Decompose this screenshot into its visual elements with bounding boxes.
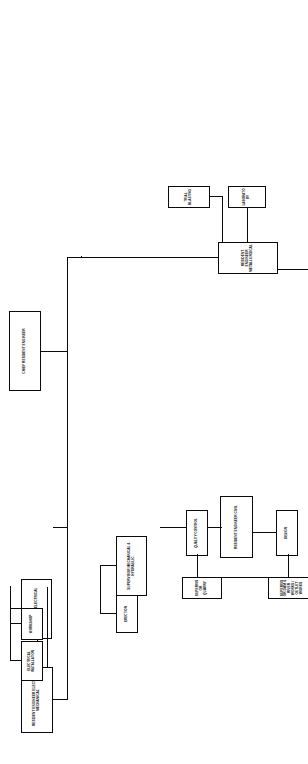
connector-em-mech-top bbox=[100, 565, 101, 614]
node-civil-design[interactable]: DESIGN bbox=[276, 510, 298, 556]
node-em-erection[interactable]: ERECTION bbox=[116, 595, 138, 633]
node-em-workshop[interactable]: WORKSHOP bbox=[21, 608, 43, 640]
connector-civil-design bbox=[253, 532, 276, 533]
node-label: DESIGN bbox=[285, 526, 289, 540]
node-label: QUALITY CONTROL bbox=[195, 517, 199, 549]
connector-branch-em bbox=[53, 699, 67, 700]
org-chart-canvas: CHIEF RESIDENT ENGINEER RESIDENT ENGINEE… bbox=[0, 0, 308, 764]
connector-em-mech-bus bbox=[47, 587, 48, 667]
connector-trunk-met-ext bbox=[67, 257, 68, 352]
node-label: CHIEF RESIDENT ENGINEER bbox=[23, 327, 27, 374]
connector-em-elec-riser bbox=[10, 608, 21, 609]
connector-root-trunk bbox=[67, 351, 68, 700]
connector-met-trial-v bbox=[210, 196, 222, 197]
connector-met-riser bbox=[81, 257, 218, 258]
node-label: LABORATORY bbox=[243, 187, 250, 207]
node-re-civil[interactable]: RESIDENT ENGINEER CIVIL bbox=[220, 496, 253, 558]
connector-met-trial-h bbox=[222, 196, 223, 242]
node-label: ELECTRICAL INSTALLATION bbox=[28, 642, 35, 680]
connector-em-elec-child-0 bbox=[10, 660, 21, 661]
node-met-trial-blasting[interactable]: TRIAL BLASTING bbox=[168, 186, 210, 208]
node-em-supervisor-mechanical[interactable]: SUPERVISOR MECHANICAL & HYDRAULIC bbox=[116, 536, 147, 596]
node-chief-resident-engineer[interactable]: CHIEF RESIDENT ENGINEER bbox=[9, 311, 41, 391]
connector-civil-bus-2 bbox=[288, 554, 289, 578]
connector-em-erection bbox=[100, 613, 116, 614]
connector-branch-met bbox=[67, 257, 81, 258]
node-label: SUPERVISOR MECHANICAL & HYDRAULIC bbox=[128, 537, 136, 595]
connector-branch-civil bbox=[53, 527, 67, 528]
node-re-metallurgical[interactable]: RESIDENT ENGINEER METALLURGICAL bbox=[218, 242, 278, 274]
node-civil-supervisor-quarry[interactable]: SUPERVISOR QUARRY bbox=[182, 577, 222, 599]
connector-em-elec-child-1 bbox=[10, 623, 21, 624]
node-label: RESIDENT ENGINEER METALLURGICAL bbox=[242, 243, 253, 273]
node-em-electrical-installation[interactable]: ELECTRICAL INSTALLATION bbox=[21, 641, 43, 681]
connector-met-mech-riser bbox=[278, 269, 308, 270]
connector-em-mech-riser bbox=[100, 565, 116, 566]
node-label: RESIDENT ENGINEER CIVIL bbox=[235, 504, 239, 550]
node-met-laboratory[interactable]: LABORATORY bbox=[228, 186, 266, 208]
connector-civil-bus bbox=[197, 554, 198, 578]
node-civil-quality-control[interactable]: QUALITY CONTROL bbox=[186, 510, 208, 556]
node-label: WORKSHOP bbox=[30, 614, 34, 634]
org-chart-frame: CHIEF RESIDENT ENGINEER RESIDENT ENGINEE… bbox=[0, 0, 308, 764]
node-label: ERECTION bbox=[125, 605, 129, 623]
connector-met-lab bbox=[247, 207, 248, 242]
node-label: TRIAL BLASTING bbox=[185, 187, 192, 207]
node-label: SUPERVISOR QUARRY bbox=[196, 578, 207, 598]
node-civil-supervisor-dam-works[interactable]: SUPERVISOR DAM & RIVER WORKS / OUTLET WO… bbox=[268, 577, 308, 599]
node-label: SUPERVISOR DAM & RIVER WORKS / OUTLET WO… bbox=[281, 578, 304, 598]
connector-root-drop bbox=[41, 351, 67, 352]
